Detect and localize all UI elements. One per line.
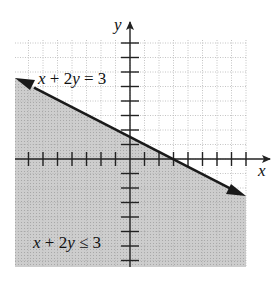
region-inequality-label: x + 2y ≤ 3: [32, 233, 101, 252]
x-axis-label: x: [257, 161, 266, 180]
line-arrow-right-icon: [226, 184, 246, 196]
y-axis-label: y: [112, 15, 122, 34]
inequality-graph: x + 2y = 3 x + 2y ≤ 3 x y: [0, 0, 280, 289]
line-equation-label: x + 2y = 3: [37, 69, 106, 88]
